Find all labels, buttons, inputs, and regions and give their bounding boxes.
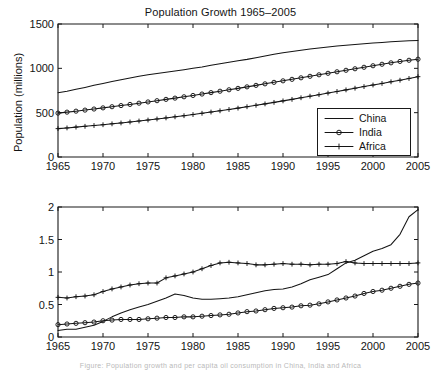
legend-item-india[interactable]: India: [318, 125, 410, 140]
oil-plot-area: 19651970197519801985199019952000200500.5…: [0, 185, 441, 370]
population-plot-area: 1965197019751980198519901995200020050500…: [0, 0, 441, 185]
axes-frame: [58, 207, 418, 337]
marker-plus-africa: [380, 261, 385, 266]
x-tick-label: 1975: [136, 160, 160, 172]
x-tick-label: 1995: [316, 340, 340, 352]
x-tick-label: 1975: [136, 340, 160, 352]
x-tick-label: 1995: [316, 160, 340, 172]
y-tick-label: 2: [48, 201, 54, 213]
marker-plus-africa: [56, 126, 61, 131]
y-tick-label: 1: [48, 266, 54, 278]
population-growth-chart: Population Growth 1965–2005 Population (…: [0, 0, 441, 185]
marker-plus-africa: [380, 81, 385, 86]
marker-plus-africa: [389, 261, 394, 266]
marker-plus-africa: [101, 122, 106, 127]
marker-plus-africa: [209, 263, 214, 268]
marker-plus-africa: [65, 126, 70, 131]
series-line-china: [58, 210, 418, 331]
marker-plus-africa: [227, 107, 232, 112]
marker-plus-africa: [272, 100, 277, 105]
marker-plus-africa: [254, 262, 259, 267]
x-tick-label: 1970: [91, 160, 115, 172]
marker-plus-africa: [263, 101, 268, 106]
marker-plus-africa: [326, 262, 331, 267]
marker-plus-africa: [218, 261, 223, 266]
marker-plus-africa: [281, 98, 286, 103]
marker-plus-africa: [398, 78, 403, 83]
y-tick-label: 0.5: [39, 299, 54, 311]
marker-plus-africa: [110, 121, 115, 126]
marker-plus-africa: [128, 283, 133, 288]
y-tick-label: 1000: [30, 62, 54, 74]
legend-sample-circle-icon: [323, 125, 355, 140]
marker-plus-africa: [164, 115, 169, 120]
x-tick-label: 1990: [271, 160, 295, 172]
legend-sample-none-icon: [323, 111, 355, 126]
marker-plus-africa: [308, 94, 313, 99]
marker-plus-africa: [83, 124, 88, 129]
marker-plus-africa: [119, 121, 124, 126]
marker-plus-africa: [227, 260, 232, 265]
x-tick-label: 1980: [181, 160, 205, 172]
oil-consumption-chart: Per Capita Oil Consumption 1965–2005 Oil…: [0, 185, 441, 370]
marker-plus-africa: [416, 261, 421, 266]
marker-plus-africa: [371, 261, 376, 266]
marker-plus-africa: [317, 262, 322, 267]
marker-plus-africa: [146, 281, 151, 286]
marker-plus-africa: [137, 281, 142, 286]
marker-plus-africa: [146, 118, 151, 123]
marker-plus-africa: [65, 296, 70, 301]
x-tick-label: 2005: [406, 340, 430, 352]
marker-plus-africa: [353, 86, 358, 91]
marker-plus-africa: [371, 83, 376, 88]
marker-plus-africa: [191, 270, 196, 275]
marker-plus-africa: [200, 111, 205, 116]
caption-fragment: Figure: Population growth and per capita…: [0, 362, 441, 370]
marker-plus-africa: [281, 261, 286, 266]
y-tick-label: 500: [36, 107, 54, 119]
marker-plus-africa: [137, 119, 142, 124]
x-tick-label: 2000: [361, 340, 385, 352]
marker-plus-africa: [128, 120, 133, 125]
x-tick-label: 1985: [226, 340, 250, 352]
marker-plus-africa: [290, 97, 295, 102]
marker-plus-africa: [110, 287, 115, 292]
marker-plus-africa: [362, 261, 367, 266]
marker-plus-africa: [398, 261, 403, 266]
y-tick-label: 1.5: [39, 234, 54, 246]
x-tick-label: 1980: [181, 340, 205, 352]
x-tick-label: 2005: [406, 160, 430, 172]
marker-plus-africa: [344, 259, 349, 264]
marker-plus-africa: [416, 74, 421, 79]
y-tick-label: 0: [48, 331, 54, 343]
marker-plus-africa: [407, 261, 412, 266]
legend-label-africa: Africa: [359, 140, 386, 153]
marker-plus-africa: [74, 125, 79, 130]
marker-plus-africa: [164, 275, 169, 280]
legend-sample-plus-icon: [323, 139, 355, 154]
legend: ChinaIndiaAfrica: [317, 108, 411, 156]
y-tick-label: 0: [48, 151, 54, 163]
marker-plus-africa: [173, 114, 178, 119]
legend-label-china: China: [359, 112, 386, 125]
marker-plus-africa: [317, 92, 322, 97]
marker-plus-africa: [92, 292, 97, 297]
marker-plus-africa: [272, 262, 277, 267]
legend-item-china[interactable]: China: [318, 111, 410, 126]
marker-plus-africa: [254, 103, 259, 108]
marker-plus-africa: [308, 262, 313, 267]
marker-plus-africa: [335, 261, 340, 266]
marker-plus-africa: [326, 91, 331, 96]
marker-plus-africa: [236, 106, 241, 111]
marker-plus-africa: [218, 108, 223, 113]
marker-plus-africa: [191, 112, 196, 117]
marker-plus-africa: [344, 87, 349, 92]
marker-plus-africa: [155, 117, 160, 122]
x-tick-label: 1970: [91, 340, 115, 352]
marker-plus-africa: [236, 261, 241, 266]
series-line-africa: [58, 262, 418, 298]
marker-plus-africa: [299, 262, 304, 267]
marker-plus-africa: [299, 95, 304, 100]
legend-item-africa[interactable]: Africa: [318, 139, 410, 154]
marker-plus-africa: [362, 84, 367, 89]
